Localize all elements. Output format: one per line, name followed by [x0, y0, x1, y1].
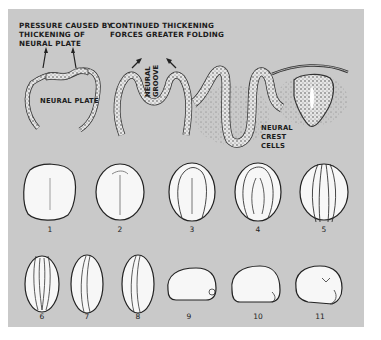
- stage-number-9: 9: [179, 312, 199, 321]
- embryo-stage-8: [122, 255, 154, 313]
- embryo-stage-9: [168, 268, 216, 300]
- embryo-row-1: [24, 163, 348, 222]
- label-neural-crest-cells: NEURAL CREST CELLS: [261, 124, 293, 151]
- label-neural-groove: NEURAL GROOVE: [144, 65, 160, 97]
- embryo-stage-7: [71, 255, 103, 313]
- embryo-stage-1: [24, 164, 76, 220]
- stage-number-7: 7: [77, 312, 97, 321]
- stage-number-3: 3: [182, 225, 202, 234]
- embryo-stage-11: [296, 266, 342, 304]
- embryo-stage-2: [96, 164, 144, 220]
- embryo-stage-6: [25, 256, 59, 312]
- stage-number-6: 6: [32, 312, 52, 321]
- neural-tube-diagram: [272, 65, 348, 126]
- neural-tube-illustrations: [0, 0, 381, 340]
- embryo-stage-3: [169, 163, 215, 221]
- embryo-stage-4: [235, 163, 281, 221]
- stage-number-8: 8: [128, 312, 148, 321]
- stage-number-2: 2: [110, 225, 130, 234]
- stage-number-11: 11: [310, 312, 330, 321]
- embryo-stage-5: [300, 164, 348, 222]
- stage-number-1: 1: [40, 225, 60, 234]
- stage-number-10: 10: [248, 312, 268, 321]
- stage-number-5: 5: [314, 225, 334, 234]
- neural-plate-diagram: [27, 47, 98, 130]
- label-neural-plate: NEURAL PLATE: [40, 97, 99, 106]
- embryo-stage-10: [232, 266, 280, 302]
- stage-number-4: 4: [248, 225, 268, 234]
- embryo-row-2: [25, 255, 342, 313]
